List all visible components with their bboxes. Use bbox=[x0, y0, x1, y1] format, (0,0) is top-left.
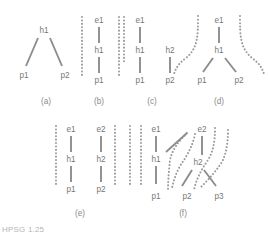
node-label-p2: p2 bbox=[234, 76, 244, 85]
panel-c: e1h1h2p1p2(c) bbox=[124, 16, 175, 106]
panel-label-b: (b) bbox=[94, 97, 104, 106]
panel-f: e1e2h1h2p1p2p3(f) bbox=[141, 125, 228, 218]
node-label-h1: h1 bbox=[66, 155, 76, 164]
solid-edge bbox=[225, 58, 236, 72]
node-label-p2: p2 bbox=[96, 185, 106, 194]
node-label-p1: p1 bbox=[19, 71, 29, 80]
node-label-e2: e2 bbox=[197, 125, 207, 134]
panel-label-d: (d) bbox=[214, 97, 224, 106]
node-label-e1: e1 bbox=[66, 125, 76, 134]
panel-label-e: (e) bbox=[75, 209, 85, 218]
node-label-p3: p3 bbox=[214, 192, 224, 201]
node-label-h1: h1 bbox=[135, 46, 145, 55]
node-label-h2: h2 bbox=[96, 155, 106, 164]
dotted-curve bbox=[172, 134, 195, 188]
panel-b: e1h1p1(b) bbox=[82, 16, 119, 106]
node-label-p2: p2 bbox=[60, 71, 70, 80]
figure-caption: HPSG 1.25 bbox=[2, 225, 44, 233]
node-label-h1: h1 bbox=[214, 46, 224, 55]
solid-edge bbox=[26, 38, 38, 66]
node-label-h1: h1 bbox=[151, 155, 161, 164]
panel-label-f: (f) bbox=[179, 209, 187, 218]
node-label-e2: e2 bbox=[96, 125, 106, 134]
node-label-h1: h1 bbox=[94, 46, 104, 55]
panel-d: e1h1p1p2(d) bbox=[174, 16, 264, 106]
solid-edge bbox=[204, 170, 216, 186]
node-label-e1: e1 bbox=[151, 125, 161, 134]
solid-edge bbox=[203, 58, 213, 72]
panel-label-c: (c) bbox=[147, 97, 157, 106]
node-label-p1: p1 bbox=[94, 76, 104, 85]
node-label-e1: e1 bbox=[214, 16, 224, 25]
node-label-h2: h2 bbox=[193, 158, 203, 167]
node-label-e1: e1 bbox=[94, 16, 104, 25]
derivation-figure: h1p1p2(a)e1h1p1(b)e1h1h2p1p2(c)e1h1p1p2(… bbox=[0, 0, 268, 233]
node-label-e1: e1 bbox=[135, 16, 145, 25]
node-label-p1: p1 bbox=[197, 76, 207, 85]
dotted-curve bbox=[174, 16, 198, 74]
figure-container: h1p1p2(a)e1h1p1(b)e1h1h2p1p2(c)e1h1p1p2(… bbox=[0, 0, 268, 233]
solid-edge bbox=[50, 38, 62, 66]
node-label-p1: p1 bbox=[135, 76, 145, 85]
solid-edge bbox=[166, 133, 187, 152]
node-label-p2: p2 bbox=[165, 76, 175, 85]
node-label-p1: p1 bbox=[151, 192, 161, 201]
node-label-h2: h2 bbox=[165, 46, 175, 55]
node-label-p1: p1 bbox=[66, 185, 76, 194]
panel-a: h1p1p2(a) bbox=[19, 26, 70, 106]
panel-e: e1e2h1h2p1p2(e) bbox=[56, 125, 130, 218]
dotted-curve bbox=[240, 16, 264, 74]
panel-label-a: (a) bbox=[41, 97, 51, 106]
solid-edge bbox=[182, 170, 192, 186]
node-label-h1: h1 bbox=[39, 26, 49, 35]
node-label-p2: p2 bbox=[182, 192, 192, 201]
